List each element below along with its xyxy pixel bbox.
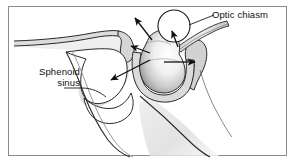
label-optic-chiasm: Optic chiasm: [212, 9, 268, 20]
anatomy-figure: Optic chiasm Sphenoid sinus: [0, 0, 297, 168]
arrow-superior-left: [135, 18, 152, 40]
label-sphenoid-sinus: Sphenoid sinus: [20, 66, 80, 88]
leader-optic-chiasm: [189, 15, 214, 25]
posterior-contour: [200, 70, 232, 137]
label-sphenoid-sinus-line2: sinus: [20, 77, 80, 88]
bone-structures: [14, 21, 232, 157]
label-sphenoid-sinus-line1: Sphenoid: [39, 66, 80, 77]
